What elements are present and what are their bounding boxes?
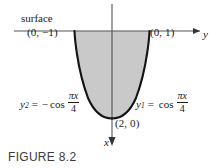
equation-y2-denominator: 4 [71, 103, 76, 114]
figure-caption: FIGURE 8.2 [8, 150, 76, 164]
equation-y2-subscript: 2 [25, 101, 29, 110]
equation-y1-equals: = [145, 98, 157, 110]
x-axis-label: x [104, 136, 109, 148]
equation-y2-sign: − [41, 98, 48, 110]
equation-y2-fraction: πx 4 [68, 91, 79, 114]
figure-container: surface (0, −1) (0, 1) (2, 0) y x y2 = −… [0, 0, 221, 168]
y-axis-arrowhead [193, 28, 200, 34]
x-axis-arrowhead [109, 137, 116, 146]
equation-y2-equals: = [29, 98, 41, 110]
point-label-vertex: (2, 0) [115, 117, 139, 129]
equation-y2-function: cos [48, 98, 65, 110]
equation-y2: y2 = − cos πx 4 [20, 92, 79, 115]
equation-y1-denominator: 4 [180, 103, 185, 114]
equation-y1: y1 = cos πx 4 [136, 92, 188, 115]
equation-y1-numerator: πx [177, 91, 188, 102]
y-axis-label: y [203, 28, 208, 40]
equation-y1-function: cos [157, 98, 174, 110]
point-label-right-intercept: (0, 1) [150, 26, 174, 38]
point-label-left-intercept: (0, −1) [27, 26, 58, 38]
surface-label: surface [21, 12, 53, 24]
equation-y1-subscript: 1 [141, 101, 145, 110]
equation-y1-fraction: πx 4 [177, 91, 188, 114]
equation-y2-numerator: πx [68, 91, 79, 102]
